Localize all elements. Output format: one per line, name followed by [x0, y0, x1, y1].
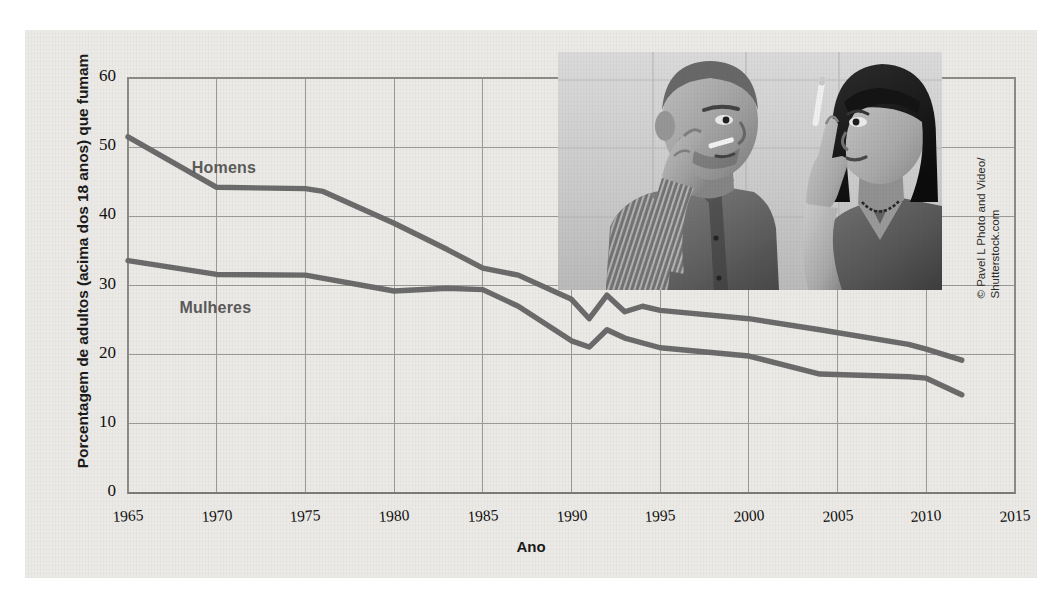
figure-container: Porcentagem de adultos (acima dos 18 ano… — [25, 30, 1037, 578]
series-label-homens: Homens — [192, 159, 256, 177]
photo-artwork — [558, 52, 942, 290]
series-label-mulheres: Mulheres — [179, 299, 251, 317]
photo-credit-line2: Shutterstock.com — [988, 89, 1002, 299]
smokers-photo — [558, 52, 942, 290]
photo-credit-line1: © Pavel L Photo and Video/ — [975, 89, 989, 299]
photo-credit: © Pavel L Photo and Video/ Shutterstock.… — [975, 89, 1002, 299]
